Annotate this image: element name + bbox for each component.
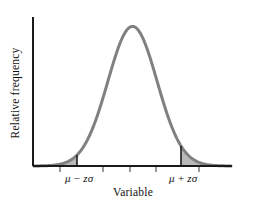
distribution-chart: Relative frequency Variable μ − zσ μ + z… bbox=[0, 0, 253, 204]
left-boundary-label: μ − zσ bbox=[64, 172, 94, 184]
right-boundary-label: μ + zσ bbox=[168, 172, 198, 184]
normal-curve bbox=[34, 26, 231, 166]
normal-distribution-figure: Relative frequency Variable μ − zσ μ + z… bbox=[0, 0, 253, 204]
y-axis-label: Relative frequency bbox=[9, 48, 22, 139]
x-axis-label: Variable bbox=[113, 186, 153, 198]
